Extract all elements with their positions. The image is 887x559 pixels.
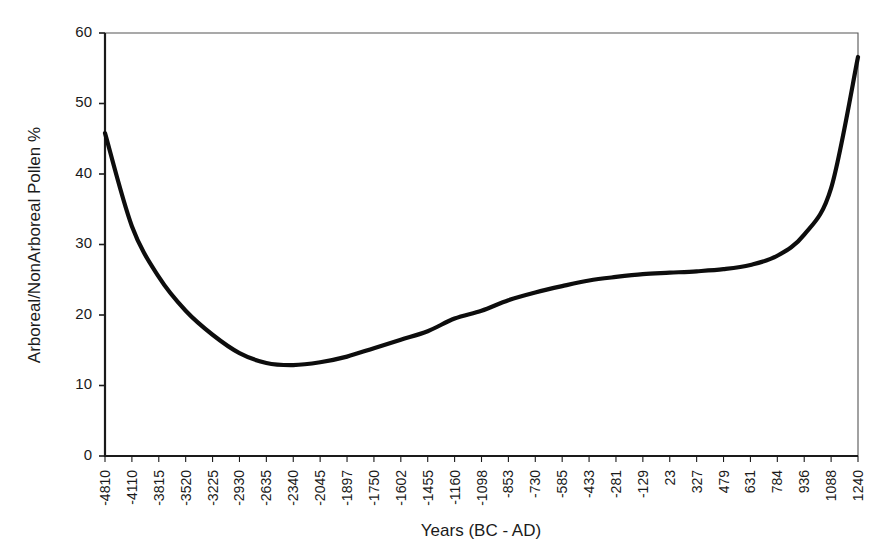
x-tick-label: 1240 [850, 470, 866, 501]
x-tick-label: -1098 [474, 470, 490, 506]
x-tick-label: 936 [796, 470, 812, 494]
x-tick-label: -585 [554, 470, 570, 498]
x-tick-label: -1897 [339, 470, 355, 506]
axis-lines [105, 33, 858, 456]
x-tick-label: 631 [742, 470, 758, 494]
x-tick-label: -129 [635, 470, 651, 498]
x-tick-label: -2635 [258, 470, 274, 506]
x-axis-tick-labels: -4810-4110-3815-3520-3225-2930-2635-2340… [97, 470, 866, 506]
x-tick-label: -1602 [393, 470, 409, 506]
x-tick-label: 784 [769, 470, 785, 494]
y-tick-label: 30 [75, 234, 92, 251]
x-tick-label: -2340 [285, 470, 301, 506]
y-tick-label: 60 [75, 23, 92, 40]
x-tick-label: -3520 [178, 470, 194, 506]
y-axis-title: Arboreal/NonArboreal Pollen % [25, 127, 44, 363]
y-tick-label: 40 [75, 164, 92, 181]
x-tick-label: -2045 [312, 470, 328, 506]
x-tick-label: -3225 [205, 470, 221, 506]
x-tick-label: -4810 [97, 470, 113, 506]
plot-frame [105, 33, 858, 456]
x-tick-label: -433 [581, 470, 597, 498]
y-tick-label: 20 [75, 305, 92, 322]
x-tick-label: 479 [716, 470, 732, 494]
x-tick-label: -1160 [447, 470, 463, 505]
x-tick-label: 327 [689, 470, 705, 494]
x-tick-label: -2930 [231, 470, 247, 506]
x-axis-title: Years (BC - AD) [421, 521, 541, 540]
x-tick-label: -3815 [151, 470, 167, 506]
pollen-percentage-line-chart: 0102030405060 -4810-4110-3815-3520-3225-… [0, 0, 887, 559]
x-tick-label: -1455 [420, 470, 436, 506]
x-tick-label: -730 [527, 470, 543, 498]
x-tick-label: 1088 [823, 470, 839, 501]
x-tick-label: -281 [608, 470, 624, 498]
pollen-series-line [105, 57, 858, 365]
y-tick-label: 0 [84, 446, 92, 463]
x-tick-label: 23 [662, 470, 678, 486]
x-tick-label: -853 [500, 470, 516, 498]
x-tick-label: -4110 [124, 470, 140, 505]
y-axis-tick-labels: 0102030405060 [75, 23, 92, 463]
chart-canvas: 0102030405060 -4810-4110-3815-3520-3225-… [0, 0, 887, 559]
y-tick-label: 10 [75, 375, 92, 392]
y-tick-label: 50 [75, 93, 92, 110]
x-tick-label: -1750 [366, 470, 382, 506]
